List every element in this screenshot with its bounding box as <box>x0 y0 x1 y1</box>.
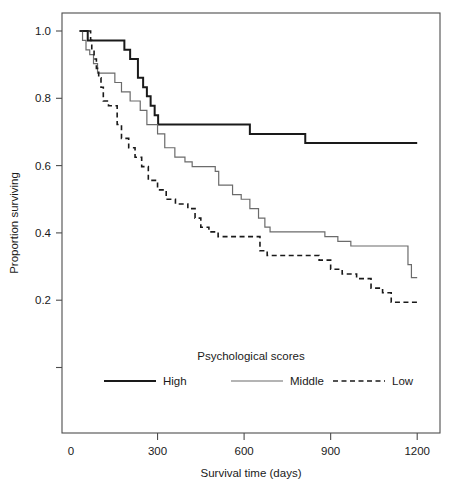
kaplan-meier-figure: 0.20.40.60.81.0 03006009001200 Survival … <box>0 0 455 482</box>
survival-curve-high <box>80 31 418 143</box>
legend-entries: HighMiddleLow <box>104 375 414 387</box>
x-tick-label: 900 <box>321 445 340 457</box>
legend-label-low: Low <box>392 375 414 387</box>
y-tick-label: 0.2 <box>35 294 51 306</box>
legend-title: Psychological scores <box>197 350 305 362</box>
y-tick-label: 0.6 <box>35 160 51 172</box>
x-axis-title: Survival time (days) <box>201 467 302 479</box>
survival-curve-low <box>80 31 418 302</box>
x-tick-label: 0 <box>68 445 74 457</box>
y-tick-label: 0.8 <box>35 92 51 104</box>
legend: Psychological scores HighMiddleLow <box>104 350 414 387</box>
survival-curve-middle <box>80 31 418 278</box>
y-tick-label: 0.4 <box>35 227 52 239</box>
x-tick-label: 300 <box>148 445 167 457</box>
y-axis-title: Proportion surviving <box>8 172 20 274</box>
y-tick-label: 1.0 <box>35 25 51 37</box>
plot-border <box>62 13 440 433</box>
survival-curve-chart: 0.20.40.60.81.0 03006009001200 Survival … <box>0 0 455 482</box>
legend-label-high: High <box>163 375 187 387</box>
x-tick-label: 1200 <box>404 445 430 457</box>
legend-label-middle: Middle <box>290 375 324 387</box>
y-axis: 0.20.40.60.81.0 <box>35 25 62 368</box>
plot-frame <box>62 13 440 433</box>
x-axis: 03006009001200 <box>68 433 430 457</box>
data-curves <box>80 31 418 302</box>
x-tick-label: 600 <box>235 445 254 457</box>
